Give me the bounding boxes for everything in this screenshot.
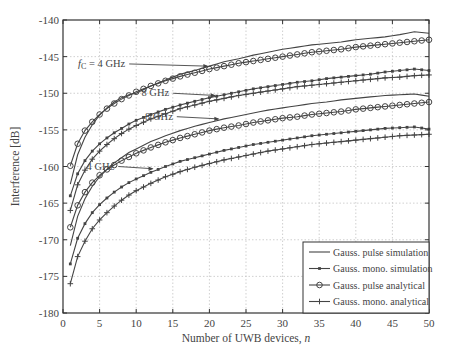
y-tick-label: -145	[39, 51, 60, 63]
x-marker	[76, 172, 79, 175]
legend-label: Gauss. pulse analytical	[333, 280, 425, 291]
y-tick-label: -150	[39, 87, 60, 99]
x-marker	[142, 174, 145, 177]
x-marker	[252, 87, 255, 90]
x-marker	[281, 83, 284, 86]
x-marker	[171, 106, 174, 109]
legend-label: Gauss. pulse simulation	[333, 247, 428, 258]
series-path	[70, 94, 429, 246]
x-marker	[332, 76, 335, 79]
x-marker	[113, 131, 116, 134]
x-marker	[318, 78, 321, 81]
x-marker	[420, 127, 423, 130]
x-marker	[149, 171, 152, 174]
x-marker	[274, 140, 277, 143]
x-marker	[259, 86, 262, 89]
x-marker	[245, 145, 248, 148]
annotation-label: 8 GHz	[141, 87, 169, 98]
circle-marker	[68, 163, 74, 169]
y-tick-label: -140	[39, 14, 60, 26]
x-marker	[267, 141, 270, 144]
x-marker	[340, 131, 343, 134]
x-marker	[208, 153, 211, 156]
y-tick-label: -170	[39, 234, 60, 246]
x-marker	[245, 89, 248, 92]
x-tick-label: 25	[241, 317, 253, 329]
x-marker	[413, 126, 416, 129]
x-tick-label: 50	[424, 317, 436, 329]
annotation-label: 4 GHz	[87, 161, 115, 172]
x-marker	[384, 127, 387, 130]
series-line	[68, 99, 432, 230]
x-marker	[376, 72, 379, 75]
arrow-head-icon	[149, 166, 154, 170]
x-marker	[310, 134, 313, 137]
x-marker	[362, 74, 365, 77]
x-marker	[413, 68, 416, 71]
annotation-label: 8 GHz	[145, 111, 173, 122]
x-marker	[179, 160, 182, 163]
x-marker	[289, 82, 292, 85]
x-marker	[303, 135, 306, 138]
x-marker	[318, 134, 321, 137]
legend-label: Gauss. mono. analytical	[333, 296, 429, 307]
x-tick-label: 35	[314, 317, 326, 329]
x-marker	[215, 151, 218, 154]
x-marker	[120, 186, 123, 189]
x-marker	[347, 75, 350, 78]
x-marker	[296, 81, 299, 84]
x-marker	[164, 165, 167, 168]
x-marker	[171, 163, 174, 166]
x-tick-label: 0	[60, 317, 66, 329]
x-marker	[420, 68, 423, 71]
x-marker	[406, 68, 409, 71]
x-marker	[135, 119, 138, 122]
x-marker	[296, 137, 299, 140]
annotation-arrow	[129, 64, 207, 66]
x-marker	[91, 150, 94, 153]
circle-marker	[68, 224, 74, 230]
x-tick-label: 30	[277, 317, 289, 329]
x-marker	[91, 211, 94, 214]
x-marker	[223, 149, 226, 152]
x-marker	[347, 131, 350, 134]
x-marker	[303, 80, 306, 83]
x-marker	[120, 127, 123, 130]
annotation-label: fC = 4 GHz	[78, 58, 125, 71]
series-line	[68, 72, 432, 213]
x-marker	[259, 142, 262, 145]
x-marker	[398, 69, 401, 72]
x-marker	[281, 139, 284, 142]
x-axis-label: Number of UWB devices, n	[182, 332, 311, 345]
x-marker	[127, 123, 130, 126]
x-marker	[237, 146, 240, 149]
x-tick-label: 45	[387, 317, 399, 329]
x-tick-label: 15	[167, 317, 179, 329]
x-marker	[267, 85, 270, 88]
x-marker	[274, 84, 277, 87]
x-marker	[127, 181, 130, 184]
y-tick-label: -180	[39, 307, 60, 319]
legend-label: Gauss. mono. simulation	[333, 263, 432, 274]
x-marker	[332, 132, 335, 135]
x-marker	[113, 191, 116, 194]
series-path	[70, 102, 429, 227]
x-marker	[84, 222, 87, 225]
x-marker	[289, 138, 292, 141]
x-marker	[384, 71, 387, 74]
x-tick-label: 20	[204, 317, 216, 329]
x-tick-label: 40	[350, 317, 362, 329]
x-marker	[186, 158, 189, 161]
y-tick-label: -155	[39, 124, 60, 136]
x-marker	[69, 194, 72, 197]
series-path	[70, 75, 429, 211]
x-marker	[354, 130, 357, 133]
x-tick-label: 5	[97, 317, 103, 329]
x-marker	[98, 203, 101, 206]
x-marker	[340, 76, 343, 79]
x-marker	[98, 142, 101, 145]
x-tick-label: 10	[131, 317, 143, 329]
x-marker	[230, 148, 233, 151]
x-marker	[391, 70, 394, 73]
x-marker	[369, 73, 372, 76]
